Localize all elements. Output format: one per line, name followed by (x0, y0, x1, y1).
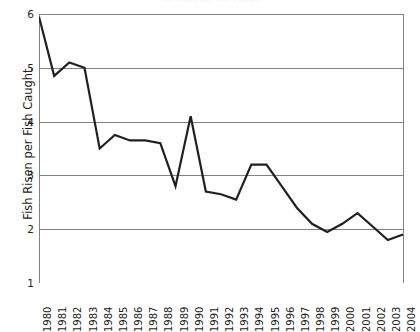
x-tick-label: 1980 (43, 288, 53, 332)
x-tick-label: 1994 (255, 288, 265, 332)
x-tick-label: 2000 (346, 288, 356, 332)
x-tick-label: 1986 (134, 288, 144, 332)
x-tick-label: 1985 (119, 288, 129, 332)
x-tick-label: 1988 (164, 288, 174, 332)
x-tick-label: 1995 (271, 288, 281, 332)
x-tick-label: 1984 (104, 288, 114, 332)
x-tick-label: 2003 (392, 288, 402, 332)
x-tick-label: 2004 (407, 288, 417, 332)
x-tick-label: 1999 (331, 288, 341, 332)
x-tick-label: 1996 (286, 288, 296, 332)
x-tick-label: 1990 (195, 288, 205, 332)
x-tick-label: 2001 (362, 288, 372, 332)
x-tick-label: 1993 (240, 288, 250, 332)
x-tick-label: 1997 (301, 288, 311, 332)
x-tick-label: 1981 (58, 288, 68, 332)
x-tick-label: 1982 (73, 288, 83, 332)
x-tick-label: 2002 (377, 288, 387, 332)
x-tick-label: 1998 (316, 288, 326, 332)
x-tick-label: 1989 (180, 288, 190, 332)
x-tick-label: 1983 (89, 288, 99, 332)
x-tick-label: 1992 (225, 288, 235, 332)
x-tick-label: 1991 (210, 288, 220, 332)
x-tick-label: 1987 (149, 288, 159, 332)
